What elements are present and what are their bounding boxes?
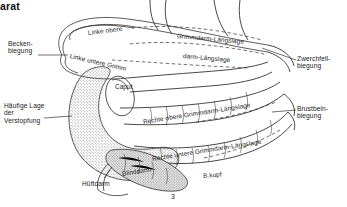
right-flexure-curves xyxy=(268,45,295,130)
colon-illustration xyxy=(0,0,347,207)
caput-detail xyxy=(102,74,138,119)
callout-hueftdarm: Hüftdarm xyxy=(82,180,110,187)
leader-haeufige xyxy=(44,116,72,118)
leader-brustbein xyxy=(272,110,296,112)
leader-zwerchfell xyxy=(262,48,296,60)
callout-brustbein-biegung: Brustbein- biegung xyxy=(297,105,328,120)
callout-haeufige-lage-verstopfung: Häufige Lage der Verstopfung xyxy=(4,102,44,124)
page-title-fragment: arat xyxy=(0,1,20,13)
page-number: 3 xyxy=(163,193,183,201)
callout-becken-biegung: Becken- biegung xyxy=(8,40,33,55)
curve-label-caput: Caput xyxy=(115,83,133,90)
callout-zwerchfell-biegung: Zwerchfell- biegung xyxy=(297,55,330,70)
anatomical-figure: arat Becken- biegung Häufige Lage der Ve… xyxy=(0,0,347,207)
